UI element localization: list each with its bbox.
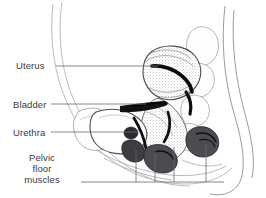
label-pelvic-floor-line-2: floor [4,163,80,174]
buttock-outline [210,6,253,195]
label-urethra: Urethra [13,127,45,138]
label-pelvic-floor-line-1: Pelvic [4,152,80,163]
pelvic-anatomy-diagram: Uterus Bladder Urethra Pelvic floor musc… [0,0,266,198]
label-uterus: Uterus [16,60,45,71]
label-pelvic-floor-muscles: Pelvic floor muscles [4,152,80,185]
label-bladder: Bladder [13,99,46,110]
label-pelvic-floor-line-3: muscles [4,174,80,185]
